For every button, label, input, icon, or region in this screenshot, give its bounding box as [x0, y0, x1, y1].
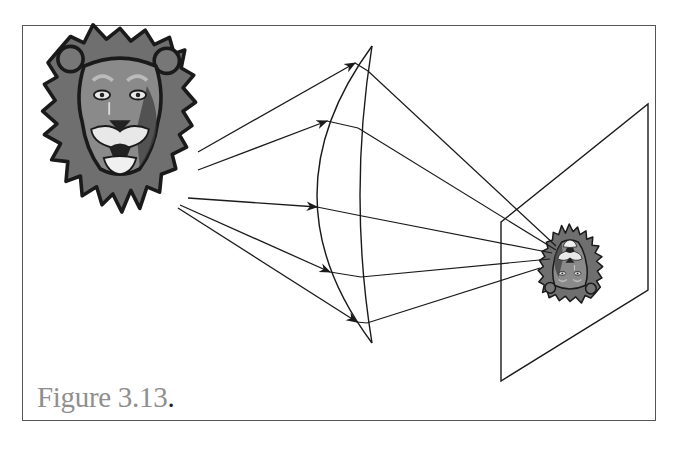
- lion-image-inverted-icon: [538, 224, 603, 303]
- caption-label: Figure 3.13: [37, 381, 167, 413]
- ray-1-incident: [198, 63, 355, 152]
- lion-object-icon: [43, 25, 196, 212]
- convex-lens: [317, 46, 372, 343]
- converging-rays: [357, 71, 556, 323]
- figure-caption: Figure 3.13.: [37, 381, 174, 414]
- ray-3-incident: [188, 198, 317, 207]
- ray-5-incident: [178, 208, 357, 322]
- ray-4-incident: [180, 205, 330, 272]
- ray-2-incident: [198, 121, 327, 170]
- incident-rays: [178, 63, 357, 322]
- caption-period: .: [167, 381, 174, 413]
